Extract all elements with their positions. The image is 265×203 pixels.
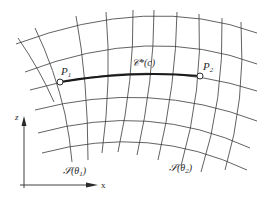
label-axis-z: z <box>14 112 19 122</box>
grid-radial-4 <box>102 12 108 153</box>
diagram-canvas: P1 P2 𝒞*(c) 𝒮(θ1) 𝒮(θ2) z x <box>0 0 265 203</box>
label-surface-theta1: 𝒮(θ1) <box>63 165 87 178</box>
grid-radial-7 <box>158 12 177 160</box>
vertical-grid-lines <box>18 10 242 172</box>
label-p2: P2 <box>202 60 214 74</box>
coordinate-axes: z x <box>14 112 106 190</box>
grid-arc-1 <box>16 16 257 44</box>
grid-radial-5 <box>118 10 133 152</box>
x-axis-arrowhead-icon <box>86 183 98 188</box>
label-p1: P1 <box>60 65 71 79</box>
grid-radial-9 <box>201 18 222 172</box>
label-surface-theta2: 𝒮(θ2) <box>169 162 193 175</box>
point-p2 <box>197 73 203 79</box>
label-curve: 𝒞*(c) <box>132 57 156 69</box>
grid-radial-8 <box>181 14 200 166</box>
point-p1 <box>57 79 63 85</box>
label-axis-x: x <box>101 180 106 190</box>
horizontal-grid-lines <box>16 16 257 170</box>
z-axis-arrowhead-icon <box>22 116 27 126</box>
grid-radial-3 <box>76 16 88 160</box>
grid-radial-6 <box>137 10 154 155</box>
grid-radial-2 <box>35 28 72 162</box>
grid-radial-10 <box>225 22 242 170</box>
grid-radial-1 <box>18 38 54 102</box>
